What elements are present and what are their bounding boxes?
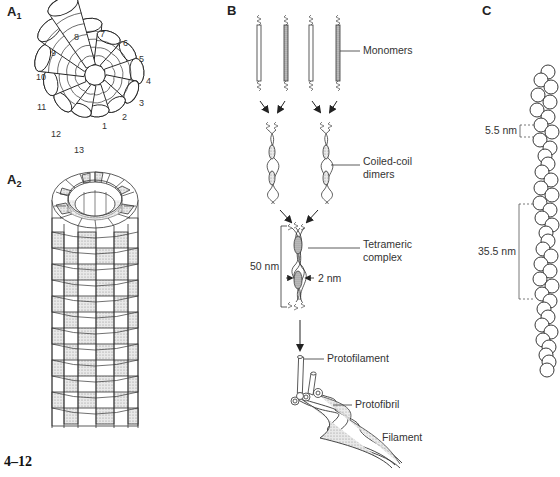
cone-label-1: 1 [102,120,107,133]
tetrameric-label-line2: complex [363,251,402,264]
coiled-coil-dimers [266,122,360,204]
cone-label-7: 7 [100,28,105,41]
figure-number: 4–12 [4,454,32,470]
tetrameric-label-line1: Tetrameric [363,238,412,251]
cone-label-2: 2 [122,111,127,124]
coiled-coil-label-line1: Coiled-coil [363,155,412,168]
coiled-coil-label-line2: dimers [363,168,395,181]
cone-label-6: 6 [123,37,128,50]
width-measure-label: 2 nm [318,272,341,285]
protofibril-label: Protofibril [355,398,399,411]
cone-label-11: 11 [37,101,46,114]
cone-label-8: 8 [74,31,79,44]
cone-label-9: 9 [51,47,56,60]
protofilament-label: Protofilament [327,352,389,365]
actin-filament [519,65,559,377]
microtubule-cylinder [52,172,138,428]
cone-label-3: 3 [139,97,144,110]
length-measure-label: 50 nm [250,260,279,273]
tetrameric-complex [281,222,360,310]
filament [291,356,402,469]
cone-label-4: 4 [146,75,151,88]
filament-label: Filament [382,431,422,444]
monomers-label: Monomers [363,44,413,57]
cone-label-13: 13 [74,144,84,157]
microtubule-cross-section [32,0,145,120]
monomers [257,15,360,91]
cone-label-10: 10 [36,71,46,84]
monomer-spacing-label: 5.5 nm [485,124,517,137]
cone-label-5: 5 [139,53,144,66]
figure-drawing [0,0,560,477]
cone-label-12: 12 [51,128,61,141]
half-repeat-label: 35.5 nm [478,245,516,258]
